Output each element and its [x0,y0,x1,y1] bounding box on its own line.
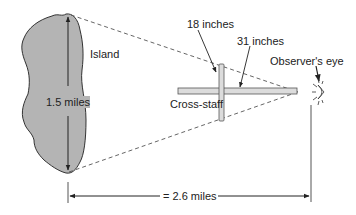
cross-staff-label: Cross-staff [170,98,223,110]
staff-length-label: 31 inches [237,35,284,47]
staff-label-pointer [240,46,250,87]
crossbar-length-label: 18 inches [187,18,234,30]
island-label: Island [90,48,119,60]
distance-label: = 2.6 miles [163,190,217,202]
island-height-label: 1.5 miles [46,96,90,108]
cross-staff-diagram: Island 1.5 miles 18 inches 31 inches Cro… [0,0,356,215]
observer-eye-label: Observer's eye [270,55,344,67]
observer-label-pointer [316,66,319,81]
cross-staff-crossbar [219,64,224,121]
island-shape [22,14,86,173]
eye-icon [312,79,324,105]
crossbar-label-pointer [198,30,216,72]
cross-staff-horizontal [178,88,297,94]
